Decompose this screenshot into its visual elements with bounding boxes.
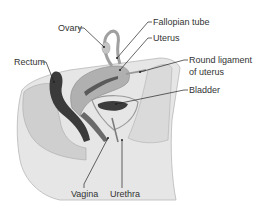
label-round-ligament-line1: Round ligament [189,55,252,65]
ovary-shape [102,42,110,54]
leader-fallopian [117,22,152,58]
label-rectum: Rectum [14,57,45,67]
label-ovary: Ovary [58,23,82,33]
label-bladder: Bladder [189,85,220,95]
label-fallopian-tube: Fallopian tube [153,17,210,27]
label-urethra: Urethra [110,189,140,199]
label-round-ligament-line2: of uterus [189,67,224,77]
label-uterus: Uterus [153,33,180,43]
anatomy-illustration [0,0,257,214]
label-vagina: Vagina [71,189,98,199]
